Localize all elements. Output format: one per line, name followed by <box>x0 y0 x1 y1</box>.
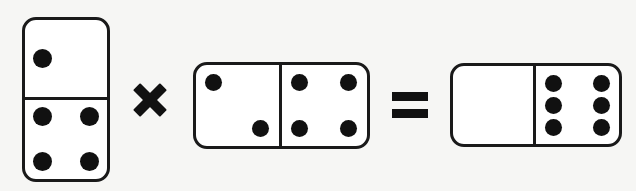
equals-operator: = <box>392 89 428 121</box>
pip-icon <box>593 119 610 136</box>
pip-icon <box>545 97 562 114</box>
equals-icon <box>392 89 428 121</box>
pip-icon <box>545 119 562 136</box>
pip-grid <box>282 65 368 146</box>
pip-icon <box>33 49 52 68</box>
pip-icon <box>291 120 308 137</box>
pip-grid <box>25 20 107 97</box>
pip-grid <box>196 65 279 146</box>
pip-icon <box>340 120 357 137</box>
pip-icon <box>80 152 99 171</box>
multiply-operator: × <box>131 81 169 119</box>
first-domino-bottom-half: 4 <box>25 100 107 180</box>
pip-grid <box>536 66 619 144</box>
second-domino[interactable]: 2 4 <box>193 62 370 149</box>
pip-icon <box>291 74 308 91</box>
pip-icon <box>205 74 222 91</box>
pip-icon <box>252 120 269 137</box>
second-domino-right-half: 4 <box>282 65 368 146</box>
pip-grid <box>453 66 533 144</box>
pip-icon <box>33 152 52 171</box>
pip-icon <box>593 97 610 114</box>
pip-icon <box>593 75 610 92</box>
result-domino-right-half: 6 <box>536 66 619 144</box>
result-domino-left-half: 0 <box>453 66 536 144</box>
pip-icon <box>80 107 99 126</box>
pip-grid <box>25 100 107 180</box>
pip-icon <box>33 107 52 126</box>
result-domino[interactable]: 0 6 <box>450 63 622 147</box>
first-domino[interactable]: 1 4 <box>22 17 110 182</box>
domino-equation-canvas: Domino multiplication equation 1|4 × 2|4… <box>0 0 636 191</box>
pip-icon <box>340 74 357 91</box>
multiply-icon <box>131 81 169 119</box>
pip-icon <box>545 75 562 92</box>
second-domino-left-half: 2 <box>196 65 282 146</box>
first-domino-top-half: 1 <box>25 20 107 100</box>
